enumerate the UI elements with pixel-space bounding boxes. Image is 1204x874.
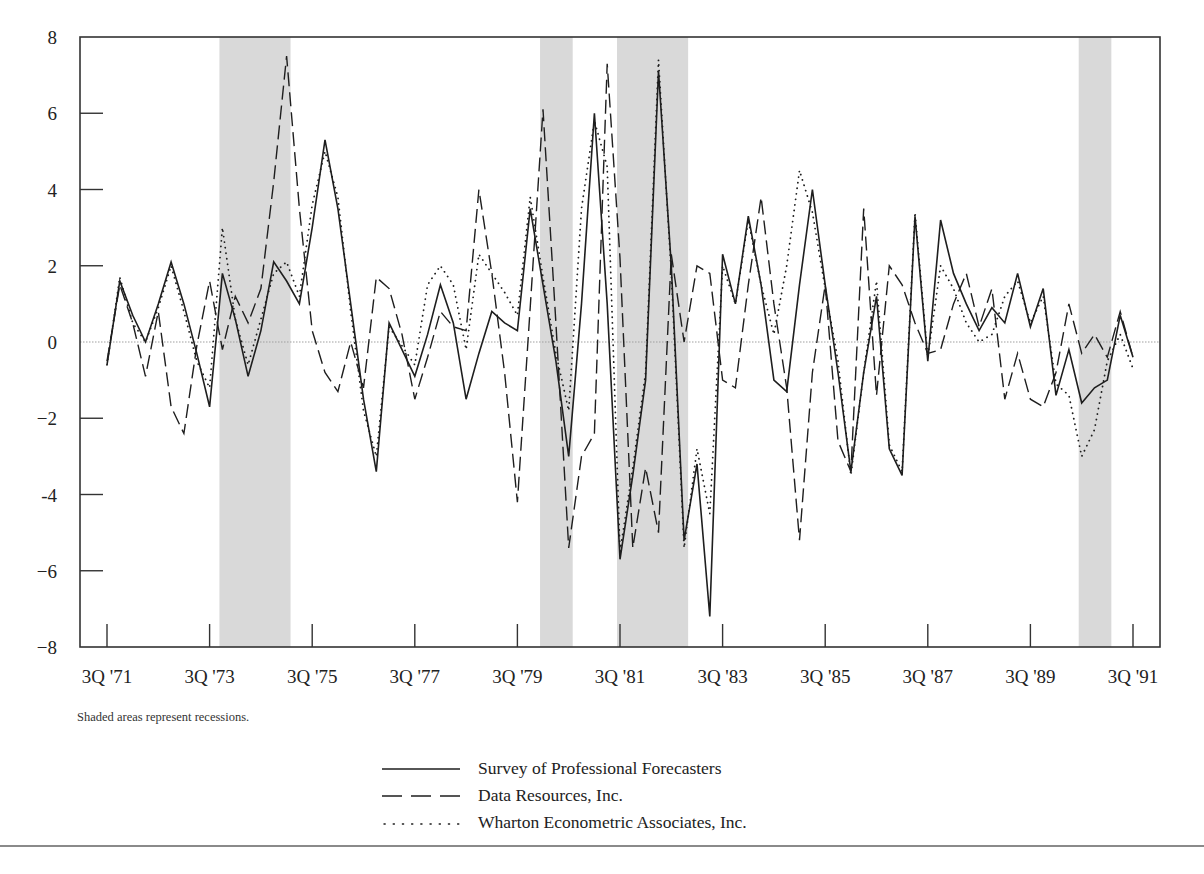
dashed-line-swatch-icon	[382, 789, 460, 803]
x-tick-label: 3Q '91	[1108, 666, 1158, 687]
x-tick-label: 3Q '79	[492, 666, 542, 687]
x-tick-label: 3Q '77	[390, 666, 440, 687]
legend-label: Wharton Econometric Associates, Inc.	[478, 812, 747, 833]
legend-label: Data Resources, Inc.	[478, 785, 623, 806]
y-tick-label: 6	[48, 103, 58, 124]
y-tick-label: 2	[48, 256, 58, 277]
solid-line-swatch-icon	[382, 762, 460, 776]
legend-item-spf: Survey of Professional Forecasters	[382, 755, 747, 782]
x-tick-label: 3Q '89	[1005, 666, 1055, 687]
y-tick-label: −6	[37, 561, 57, 582]
recession-note: Shaded areas represent recessions.	[77, 710, 249, 725]
x-tick-label: 3Q '71	[82, 666, 132, 687]
legend-label: Survey of Professional Forecasters	[478, 758, 722, 779]
y-tick-label: -4	[41, 485, 57, 506]
y-tick-label: 0	[48, 332, 58, 353]
y-tick-label: 8	[48, 27, 58, 48]
x-tick-label: 3Q '85	[800, 666, 850, 687]
y-tick-label: −8	[37, 637, 57, 658]
dotted-line-swatch-icon	[382, 816, 460, 830]
forecast-error-chart: 86420−2-4−6−8 3Q '713Q '733Q '753Q '773Q…	[0, 0, 1204, 874]
x-tick-label: 3Q '83	[697, 666, 747, 687]
y-tick-label: 4	[48, 180, 58, 201]
x-tick-label: 3Q '87	[903, 666, 953, 687]
y-tick-label: −2	[37, 408, 57, 429]
legend-item-wefa: Wharton Econometric Associates, Inc.	[382, 809, 747, 836]
x-tick-label: 3Q '73	[184, 666, 234, 687]
x-tick-label: 3Q '81	[595, 666, 645, 687]
recession-band	[540, 37, 573, 647]
x-tick-label: 3Q '75	[287, 666, 337, 687]
legend-item-dri: Data Resources, Inc.	[382, 782, 747, 809]
legend: Survey of Professional Forecasters Data …	[382, 755, 747, 836]
bottom-divider	[0, 845, 1204, 847]
